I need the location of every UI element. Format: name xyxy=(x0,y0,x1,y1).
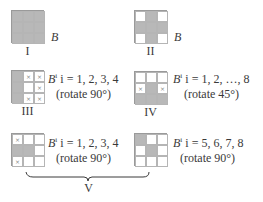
group-label-v: V xyxy=(72,181,105,196)
brace-group-v xyxy=(0,0,263,202)
